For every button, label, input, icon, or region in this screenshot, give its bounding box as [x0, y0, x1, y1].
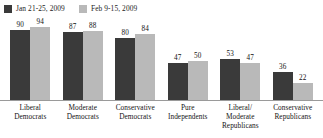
bar-slot: 84: [135, 22, 155, 100]
bar-0-0: [10, 30, 30, 100]
category-label-line: Democrats: [110, 112, 161, 121]
bar-group-3: 4750: [162, 22, 215, 100]
bar-value-label: 94: [37, 18, 44, 26]
bar-value-label: 84: [142, 25, 149, 33]
bar-value-label: 50: [194, 52, 201, 60]
legend-swatch-dark: [4, 5, 12, 13]
bar-value-label: 87: [69, 23, 76, 31]
bar-slot: 94: [30, 22, 50, 100]
bar-slot: 53: [220, 22, 240, 100]
bar-slot: 47: [240, 22, 260, 100]
bar-5-0: [273, 72, 293, 100]
bar-value-label: 47: [247, 54, 254, 62]
grouped-bar-chart: Jan 21-25, 2009Feb 9-15, 2009 9094878880…: [0, 0, 323, 138]
bar-slot: 50: [188, 22, 208, 100]
category-label-1: ModerateDemocrats: [57, 103, 110, 131]
bar-4-1: [240, 63, 260, 100]
category-label-line: Democrats: [58, 112, 109, 121]
category-label-line: Conservative: [110, 103, 161, 112]
bar-3-0: [168, 63, 188, 100]
bar-group-4: 5347: [214, 22, 267, 100]
plot-area: 909487888084475053473622: [4, 22, 319, 100]
bar-value-label: 47: [174, 54, 181, 62]
bar-value-label: 53: [227, 50, 234, 58]
bar-value-label: 90: [17, 21, 24, 29]
category-label-line: Independents: [163, 112, 214, 121]
bar-1-0: [63, 32, 83, 100]
category-label-2: ConservativeDemocrats: [109, 103, 162, 131]
bar-group-1: 8788: [57, 22, 110, 100]
legend-item-1: Feb 9-15, 2009: [79, 3, 137, 14]
category-label-0: LiberalDemocrats: [4, 103, 57, 131]
category-label-line: Moderate: [58, 103, 109, 112]
bar-value-label: 22: [299, 74, 306, 82]
bar-group-0: 9094: [4, 22, 57, 100]
category-label-line: Liberal/: [215, 103, 266, 112]
bar-0-1: [30, 27, 50, 100]
category-axis-labels: LiberalDemocratsModerateDemocratsConserv…: [4, 103, 319, 131]
legend-label-0: Jan 21-25, 2009: [16, 5, 65, 13]
bar-slot: 22: [293, 22, 313, 100]
bar-group-5: 3622: [267, 22, 320, 100]
bar-2-0: [115, 38, 135, 100]
bar-5-1: [293, 83, 313, 100]
bar-slot: 88: [83, 22, 103, 100]
category-label-line: Democrats: [5, 112, 56, 121]
category-label-line: Liberal: [5, 103, 56, 112]
bar-slot: 36: [273, 22, 293, 100]
bar-groups: 909487888084475053473622: [4, 22, 319, 100]
category-label-5: ConservativeRepublicans: [267, 103, 320, 131]
bar-slot: 80: [115, 22, 135, 100]
category-label-4: Liberal/ModerateRepublicans: [214, 103, 267, 131]
bar-3-1: [188, 61, 208, 100]
category-label-line: Republicans: [215, 121, 266, 130]
bar-value-label: 36: [279, 63, 286, 71]
bar-group-2: 8084: [109, 22, 162, 100]
legend-label-1: Feb 9-15, 2009: [91, 5, 137, 13]
bar-1-1: [83, 31, 103, 100]
bar-slot: 87: [63, 22, 83, 100]
axis-baseline: [0, 100, 323, 101]
category-label-line: Moderate: [215, 112, 266, 121]
bar-4-0: [220, 59, 240, 100]
legend-swatch-light: [79, 5, 87, 13]
legend-item-0: Jan 21-25, 2009: [4, 3, 65, 14]
bar-slot: 90: [10, 22, 30, 100]
bar-slot: 47: [168, 22, 188, 100]
category-label-line: Republicans: [268, 112, 319, 121]
chart-legend: Jan 21-25, 2009Feb 9-15, 2009: [4, 3, 137, 14]
bar-2-1: [135, 34, 155, 100]
category-label-line: Pure: [163, 103, 214, 112]
category-label-3: PureIndependents: [162, 103, 215, 131]
category-label-line: Conservative: [268, 103, 319, 112]
bar-value-label: 80: [122, 29, 129, 37]
bar-value-label: 88: [89, 22, 96, 30]
